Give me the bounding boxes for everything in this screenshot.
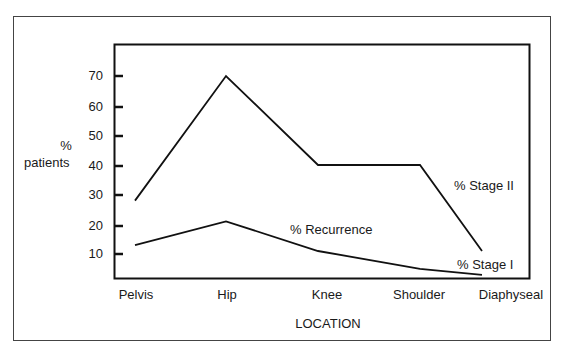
y-tick-label: 20 <box>63 218 103 233</box>
recurrence-series-label: % Recurrence <box>290 222 372 237</box>
y-tick-label: 60 <box>63 99 103 114</box>
stage1-series-label: % Stage I <box>457 257 513 272</box>
y-tick-label: 50 <box>63 128 103 143</box>
x-tick-label: Hip <box>217 287 237 302</box>
x-tick-label: Diaphyseal <box>479 287 543 302</box>
x-tick-label: Knee <box>312 287 342 302</box>
y-tick-label: 70 <box>63 68 103 83</box>
x-tick-label: Shoulder <box>393 287 445 302</box>
x-tick-label: Pelvis <box>119 287 154 302</box>
stage2-series-label: % Stage II <box>454 178 514 193</box>
y-tick-label: 40 <box>63 158 103 173</box>
y-tick-label: 10 <box>63 246 103 261</box>
x-axis-label: LOCATION <box>295 316 361 331</box>
y-tick-label: 30 <box>63 187 103 202</box>
plot-area <box>115 45 530 279</box>
